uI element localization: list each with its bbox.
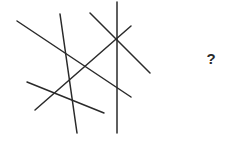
line-6	[27, 82, 104, 113]
line-2	[60, 14, 77, 133]
intersecting-lines-figure	[0, 0, 160, 147]
line-3	[90, 13, 150, 73]
question-mark: ?	[203, 50, 219, 67]
